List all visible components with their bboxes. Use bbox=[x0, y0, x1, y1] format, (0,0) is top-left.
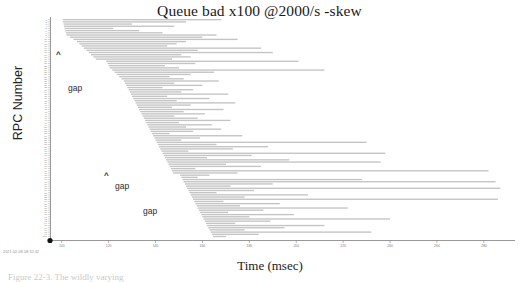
rpc-span-bar bbox=[131, 93, 228, 94]
rpc-span-bar bbox=[132, 96, 167, 97]
rpc-span-bar bbox=[173, 172, 237, 173]
rpc-span-bar bbox=[160, 148, 233, 149]
rpc-span-bar bbox=[138, 107, 172, 108]
rpc-span-bar bbox=[66, 32, 163, 33]
rpc-span-bar bbox=[66, 34, 216, 35]
x-tick-labels-group: 100120140160180200220240260280 bbox=[59, 241, 487, 248]
x-tick-label: 180 bbox=[247, 244, 253, 248]
rpc-span-bar bbox=[207, 225, 324, 226]
rpc-span-bar bbox=[84, 47, 261, 48]
rpc-span-bar bbox=[127, 87, 162, 88]
rpc-span-bar bbox=[164, 155, 252, 156]
rpc-span-bar bbox=[130, 91, 182, 92]
rpc-span-bar bbox=[141, 113, 204, 114]
gap-annotation-2: gap bbox=[115, 181, 129, 191]
rpc-span-bar bbox=[211, 231, 372, 232]
rpc-span-bar bbox=[163, 153, 386, 154]
rpc-span-bar bbox=[208, 227, 284, 228]
rpc-span-bar bbox=[63, 19, 221, 20]
rpc-span-bar bbox=[119, 76, 169, 77]
rpc-span-bar bbox=[168, 164, 225, 165]
x-tick-label: 240 bbox=[387, 244, 393, 248]
gap-annotation-3: gap bbox=[143, 206, 157, 216]
origin-marker-dot bbox=[47, 238, 52, 243]
rpc-span-bar bbox=[188, 190, 254, 191]
rpc-span-bar bbox=[147, 124, 211, 125]
rpc-span-bar bbox=[209, 229, 244, 230]
rpc-span-bar bbox=[149, 126, 187, 127]
rpc-span-bar bbox=[114, 72, 214, 73]
caret-marker-2: ^ bbox=[104, 171, 109, 180]
rpc-bars-group bbox=[63, 19, 500, 237]
render-timestamp: 2021-02-08 08:32:42 bbox=[3, 250, 39, 254]
rpc-span-bar bbox=[187, 188, 500, 189]
rpc-span-bar bbox=[185, 183, 273, 184]
rpc-span-bar bbox=[152, 133, 170, 134]
rpc-span-bar bbox=[153, 135, 242, 136]
rpc-span-bar bbox=[125, 83, 174, 84]
y-axis-label: RPC Number bbox=[11, 38, 25, 168]
rpc-span-bar bbox=[144, 118, 198, 119]
rpc-span-bar bbox=[133, 98, 209, 99]
rpc-span-bar bbox=[201, 214, 294, 215]
rpc-span-bar bbox=[183, 179, 362, 180]
rpc-span-bar bbox=[202, 216, 249, 217]
rpc-span-bar bbox=[146, 122, 179, 123]
figure-caption: Figure 22-3. The wildly varying bbox=[8, 272, 124, 282]
rpc-span-bar bbox=[134, 100, 176, 101]
rpc-span-bar bbox=[151, 131, 193, 132]
rpc-span-bar bbox=[65, 28, 114, 29]
rpc-span-bar bbox=[150, 129, 222, 130]
rpc-span-bar bbox=[199, 210, 263, 211]
y-tick-label: 100 bbox=[43, 235, 48, 238]
rpc-span-bar bbox=[204, 218, 390, 219]
rpc-span-bar bbox=[192, 196, 245, 197]
rpc-span-bar bbox=[64, 23, 132, 24]
x-tick-label: 220 bbox=[340, 244, 346, 248]
rpc-span-bar bbox=[77, 41, 186, 42]
caret-marker-1: ^ bbox=[56, 50, 61, 59]
rpc-span-bar bbox=[73, 39, 237, 40]
rpc-span-bar bbox=[186, 185, 231, 186]
rpc-span-bar bbox=[79, 43, 176, 44]
x-tick-label: 260 bbox=[434, 244, 440, 248]
rpc-span-bar bbox=[106, 61, 298, 62]
rpc-span-bar bbox=[181, 177, 197, 178]
rpc-span-bar bbox=[197, 205, 240, 206]
rpc-span-bar bbox=[70, 37, 203, 38]
rpc-span-bar bbox=[124, 80, 219, 81]
rpc-span-bar bbox=[205, 220, 271, 221]
rpc-span-bar bbox=[136, 102, 236, 103]
rpc-span-bar bbox=[198, 207, 348, 208]
rpc-span-bar bbox=[117, 74, 191, 75]
rpc-span-bar bbox=[93, 56, 190, 57]
rpc-span-bar bbox=[107, 63, 195, 64]
rpc-span-bar bbox=[109, 65, 165, 66]
rpc-span-bar bbox=[139, 109, 223, 110]
rpc-span-bar bbox=[195, 203, 279, 204]
rpc-span-bar bbox=[64, 26, 174, 27]
x-tick-label: 200 bbox=[293, 244, 299, 248]
gap-annotation-1: gap bbox=[68, 83, 82, 93]
rpc-span-bar bbox=[129, 89, 193, 90]
rpc-span-bar bbox=[165, 157, 207, 158]
x-tick-label: 100 bbox=[59, 244, 65, 248]
rpc-span-bar bbox=[156, 139, 182, 140]
x-tick-label: 140 bbox=[153, 244, 159, 248]
rpc-span-bar bbox=[200, 212, 228, 213]
rpc-span-bar bbox=[145, 120, 231, 121]
rpc-span-bar bbox=[206, 223, 235, 224]
rpc-span-bar bbox=[86, 50, 197, 51]
x-tick-label: 120 bbox=[106, 244, 112, 248]
rpc-span-bar bbox=[193, 199, 498, 200]
rpc-span-bar bbox=[91, 54, 181, 55]
rpc-span-bar bbox=[122, 78, 184, 79]
rpc-span-bar bbox=[171, 168, 196, 169]
rpc-span-bar bbox=[167, 161, 380, 162]
rpc-span-bar bbox=[140, 111, 183, 112]
rpc-span-bar bbox=[161, 150, 188, 151]
rpc-span-bar bbox=[212, 234, 259, 235]
rpc-span-bar bbox=[172, 170, 489, 171]
